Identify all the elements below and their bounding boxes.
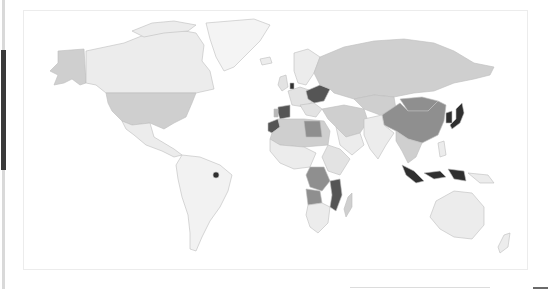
region-dr-congo[interactable]: [306, 167, 330, 191]
region-australia[interactable]: [430, 191, 484, 239]
region-french-guiana[interactable]: [213, 172, 219, 178]
region-southern-europe[interactable]: [300, 103, 322, 117]
bottom-divider: [350, 287, 490, 288]
region-greenland[interactable]: [206, 19, 270, 71]
region-madagascar[interactable]: [344, 193, 352, 217]
region-new-zealand[interactable]: [498, 233, 510, 253]
region-united-states[interactable]: [106, 93, 196, 129]
region-russia[interactable]: [314, 39, 494, 99]
region-angola[interactable]: [306, 189, 322, 205]
world-map[interactable]: [24, 11, 529, 271]
region-alaska[interactable]: [50, 49, 86, 85]
region-netherlands[interactable]: [290, 83, 294, 89]
region-spain[interactable]: [278, 105, 290, 119]
region-south-america[interactable]: [176, 155, 232, 251]
region-portugal[interactable]: [274, 109, 278, 117]
region-mexico[interactable]: [122, 121, 182, 157]
region-indonesia[interactable]: [402, 165, 466, 183]
region-libya[interactable]: [304, 121, 322, 137]
region-papua[interactable]: [468, 173, 494, 183]
world-map-panel[interactable]: [23, 10, 528, 270]
region-iceland[interactable]: [260, 57, 272, 65]
scrollbar-thumb[interactable]: [1, 50, 6, 170]
region-uk[interactable]: [278, 75, 288, 91]
region-korea[interactable]: [446, 111, 452, 123]
region-southern-africa[interactable]: [306, 203, 330, 233]
region-tanzania-mozambique[interactable]: [330, 179, 342, 211]
region-canada[interactable]: [86, 29, 214, 93]
region-philippines[interactable]: [438, 141, 446, 157]
